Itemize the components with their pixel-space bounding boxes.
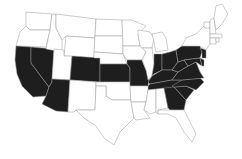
state-new-mexico	[68, 80, 96, 112]
state-massachusetts	[210, 34, 222, 38]
state-wisconsin	[138, 30, 154, 48]
state-south-dakota	[94, 36, 123, 54]
state-colorado	[70, 56, 100, 82]
state-montana	[56, 14, 96, 40]
state-michigan	[152, 32, 168, 52]
state-rhode-island	[216, 38, 219, 42]
state-arkansas	[130, 86, 148, 102]
state-wyoming	[64, 36, 95, 58]
state-connecticut	[210, 38, 216, 44]
state-vermont	[204, 22, 210, 28]
us-states-map	[0, 0, 242, 159]
state-north-dakota	[95, 19, 123, 36]
state-kansas	[100, 64, 130, 82]
state-maine	[214, 4, 228, 30]
state-florida	[158, 110, 196, 142]
state-washington	[26, 12, 52, 30]
